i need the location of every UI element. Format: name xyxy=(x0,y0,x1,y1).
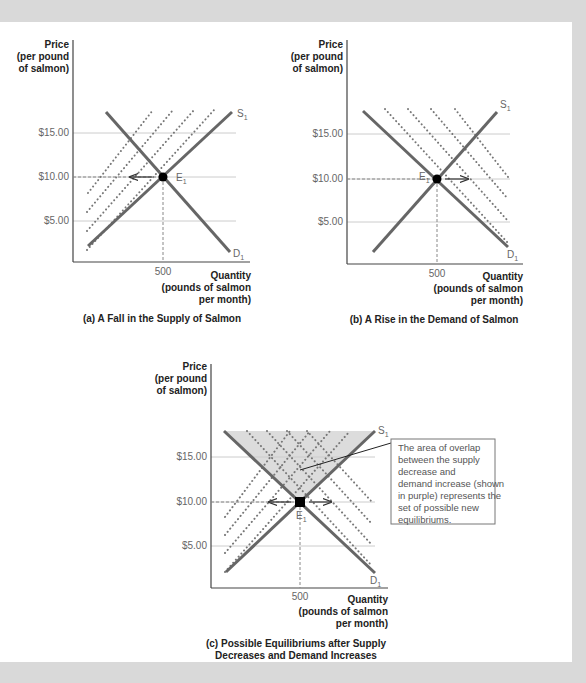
s1-label: S1 xyxy=(500,99,511,112)
svg-text:per month): per month) xyxy=(199,294,251,305)
svg-text:(pounds of salmon: (pounds of salmon xyxy=(162,282,251,293)
svg-text:$15.00: $15.00 xyxy=(312,128,343,139)
svg-text:demand increase (shown: demand increase (shown xyxy=(398,478,504,489)
y-axis-label: Price (per pound of salmon) xyxy=(291,39,344,74)
svg-text:(per pound: (per pound xyxy=(17,51,69,62)
svg-text:per month): per month) xyxy=(471,295,523,306)
svg-text:(pounds of salmon: (pounds of salmon xyxy=(299,606,388,617)
svg-text:Price: Price xyxy=(319,39,344,50)
chart-caption: (c) Possible Equilibriums after Supply D… xyxy=(206,638,386,661)
svg-text:Price: Price xyxy=(183,361,208,372)
s1-label: S1 xyxy=(237,108,248,121)
x-axis-label: Quantity (pounds of salmon per month) xyxy=(434,271,524,306)
svg-text:of salmon): of salmon) xyxy=(292,63,343,74)
svg-text:$5.00: $5.00 xyxy=(318,216,343,227)
y-axis-label: Price (per pound of salmon) xyxy=(155,361,208,396)
chart-caption: (b) A Rise in the Demand of Salmon xyxy=(350,314,519,325)
svg-text:$10.00: $10.00 xyxy=(38,171,69,182)
svg-text:$5.00: $5.00 xyxy=(44,215,69,226)
equilibrium-point xyxy=(295,497,305,507)
x-axis-label: Quantity (pounds of salmon per month) xyxy=(162,270,252,305)
y-axis-label: Price (per pound of salmon) xyxy=(17,39,70,74)
svg-text:of salmon): of salmon) xyxy=(156,385,207,396)
figure-page: Price (per pound of salmon) $15.00 $10.0… xyxy=(0,22,572,662)
svg-text:of salmon): of salmon) xyxy=(18,63,69,74)
svg-text:equilibriums.: equilibriums. xyxy=(398,514,451,525)
svg-text:The area of overlap: The area of overlap xyxy=(398,442,480,453)
svg-text:$5.00: $5.00 xyxy=(182,540,207,551)
svg-text:decrease and: decrease and xyxy=(398,466,456,477)
svg-text:Decreases and Demand Increases: Decreases and Demand Increases xyxy=(215,650,377,661)
chart-b: Price (per pound of salmon) $15.00 $10.0… xyxy=(291,39,524,325)
chart-c: Price (per pound of salmon) $15.00 $10.0… xyxy=(155,361,504,661)
d1-label: D1 xyxy=(233,248,244,261)
svg-text:Price: Price xyxy=(45,39,70,50)
svg-text:set of possible new: set of possible new xyxy=(398,502,479,513)
svg-text:(c) Possible Equilibriums afte: (c) Possible Equilibriums after Supply xyxy=(206,638,386,649)
s1-label: S1 xyxy=(378,425,389,438)
figure-svg: Price (per pound of salmon) $15.00 $10.0… xyxy=(0,22,572,662)
svg-text:per month): per month) xyxy=(336,618,388,629)
e1-label: E1 xyxy=(296,510,307,523)
shifted-demand-curves xyxy=(385,109,508,243)
svg-text:Quantity: Quantity xyxy=(482,271,523,282)
e1-label: E1 xyxy=(176,172,187,185)
svg-text:$10.00: $10.00 xyxy=(176,496,207,507)
svg-text:500: 500 xyxy=(429,268,446,279)
svg-text:(per pound: (per pound xyxy=(291,51,343,62)
svg-text:$15.00: $15.00 xyxy=(38,127,69,138)
svg-text:$15.00: $15.00 xyxy=(176,451,207,462)
x-axis-label: Quantity (pounds of salmon per month) xyxy=(299,594,389,629)
svg-text:Quantity: Quantity xyxy=(210,270,251,281)
svg-text:Quantity: Quantity xyxy=(347,594,388,605)
svg-text:(per pound: (per pound xyxy=(155,373,207,384)
equilibrium-point xyxy=(159,173,168,182)
svg-text:in purple) represents the: in purple) represents the xyxy=(398,490,501,501)
svg-text:500: 500 xyxy=(155,266,172,277)
chart-a: Price (per pound of salmon) $15.00 $10.0… xyxy=(17,39,252,324)
equilibrium-point xyxy=(433,175,442,184)
svg-text:500: 500 xyxy=(292,591,309,602)
svg-text:between the supply: between the supply xyxy=(398,454,480,465)
chart-caption: (a) A Fall in the Supply of Salmon xyxy=(83,313,241,324)
d1-label: D1 xyxy=(507,249,518,262)
svg-text:(pounds of salmon: (pounds of salmon xyxy=(434,283,523,294)
d1-label: D1 xyxy=(370,575,381,588)
svg-text:$10.00: $10.00 xyxy=(312,173,343,184)
